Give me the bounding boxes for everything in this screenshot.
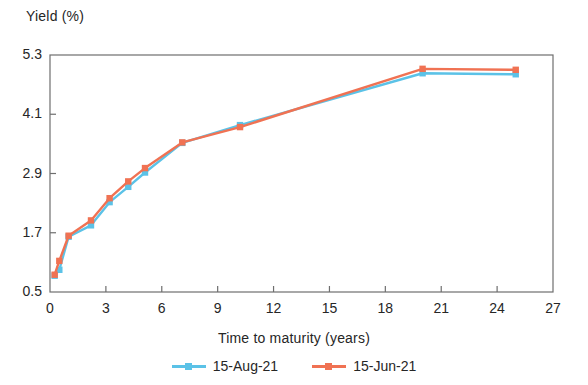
legend-swatch-icon xyxy=(312,360,346,372)
series-marker xyxy=(237,124,243,130)
plot-frame xyxy=(50,55,553,292)
plot-area xyxy=(0,0,588,385)
series-marker xyxy=(51,272,57,278)
series-line xyxy=(55,73,516,275)
legend-swatch-icon xyxy=(172,360,206,372)
series-marker xyxy=(125,178,131,184)
series-marker xyxy=(179,139,185,145)
series-marker xyxy=(88,217,94,223)
series-marker xyxy=(142,165,148,171)
series-marker xyxy=(65,233,71,239)
series-marker xyxy=(106,195,112,201)
chart-legend: 15-Aug-2115-Jun-21 xyxy=(0,358,588,374)
data-series xyxy=(51,70,518,279)
legend-marker-icon xyxy=(325,363,332,370)
series-marker xyxy=(419,66,425,72)
data-series xyxy=(51,66,518,278)
yield-curve-chart: Yield (%) Time to maturity (years) 5.34.… xyxy=(0,0,588,385)
legend-item[interactable]: 15-Jun-21 xyxy=(312,358,416,374)
series-marker xyxy=(56,258,62,264)
legend-item[interactable]: 15-Aug-21 xyxy=(172,358,278,374)
legend-marker-icon xyxy=(185,363,192,370)
series-line xyxy=(55,69,516,275)
data-series-group xyxy=(51,66,518,279)
legend-label: 15-Jun-21 xyxy=(353,358,416,374)
axis-frame xyxy=(50,55,553,292)
series-marker xyxy=(513,67,519,73)
legend-label: 15-Aug-21 xyxy=(213,358,278,374)
axis-tick-marks xyxy=(50,114,497,292)
